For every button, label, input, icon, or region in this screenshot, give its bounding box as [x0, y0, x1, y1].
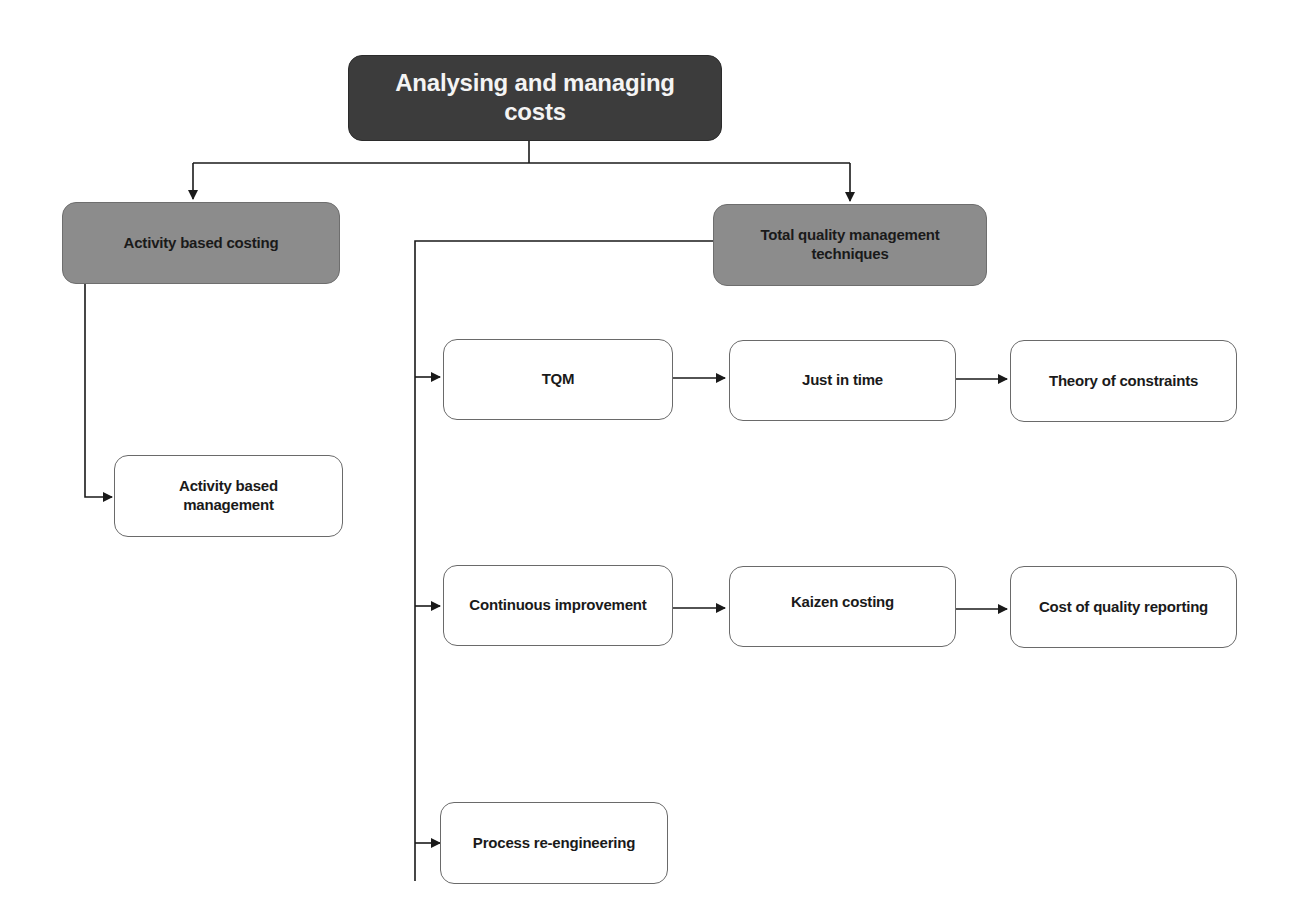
node-kaizen-costing: Kaizen costing — [729, 566, 956, 647]
root-node-label: Analysing and managing costs — [379, 69, 691, 127]
node-cost-of-quality-reporting: Cost of quality reporting — [1010, 566, 1237, 648]
diagram-canvas: Analysing and managing costs Activity ba… — [0, 0, 1299, 921]
category-label: Total quality management techniques — [754, 226, 946, 264]
node-label: Process re-engineering — [473, 834, 635, 853]
node-label: TQM — [542, 370, 575, 389]
node-label: Continuous improvement — [469, 596, 646, 615]
node-label: Just in time — [802, 371, 883, 390]
node-tqm: TQM — [443, 339, 673, 420]
node-activity-based-management: Activity based management — [114, 455, 343, 537]
node-continuous-improvement: Continuous improvement — [443, 565, 673, 646]
node-process-re-engineering: Process re-engineering — [440, 802, 668, 884]
node-just-in-time: Just in time — [729, 340, 956, 421]
edge-abc-to-abm — [85, 283, 112, 497]
node-label: Cost of quality reporting — [1039, 598, 1208, 617]
category-label: Activity based costing — [124, 234, 279, 253]
node-label: Kaizen costing — [791, 593, 894, 612]
node-label: Theory of constraints — [1049, 372, 1198, 391]
category-total-quality-management-techniques: Total quality management techniques — [713, 204, 987, 286]
node-theory-of-constraints: Theory of constraints — [1010, 340, 1237, 422]
root-node: Analysing and managing costs — [348, 55, 722, 141]
edge-tqm-techniques-bus — [415, 241, 713, 881]
node-label: Activity based management — [155, 477, 302, 515]
category-activity-based-costing: Activity based costing — [62, 202, 340, 284]
